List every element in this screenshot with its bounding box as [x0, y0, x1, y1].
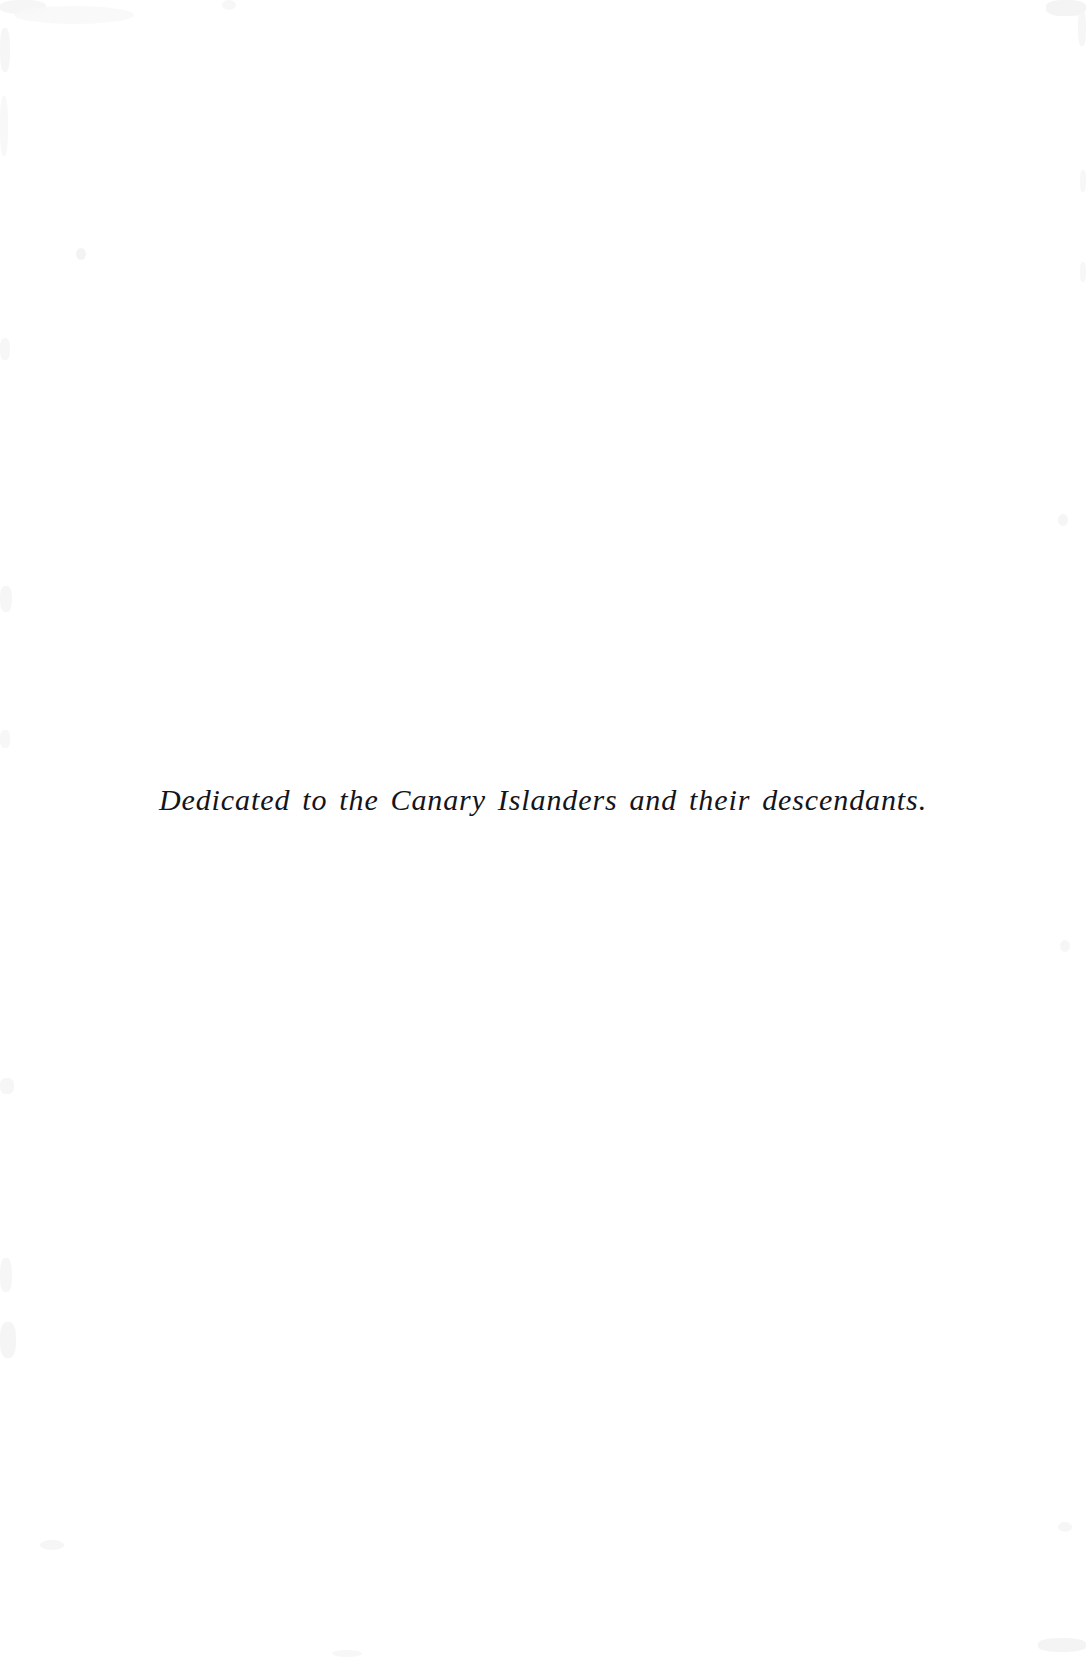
- scan-artifact: [332, 1650, 362, 1657]
- scan-artifact: [0, 28, 10, 72]
- scan-artifact: [1080, 170, 1086, 192]
- scan-artifact: [1058, 514, 1068, 526]
- scan-artifact: [0, 586, 12, 612]
- scan-artifact: [0, 338, 10, 360]
- scan-artifact: [0, 96, 8, 156]
- scan-artifact: [76, 248, 86, 260]
- scanned-page: Dedicated to the Canary Islanders and th…: [0, 0, 1086, 1657]
- scan-artifact: [0, 730, 10, 748]
- scan-artifact: [0, 0, 46, 14]
- scan-artifact: [40, 1540, 64, 1550]
- scan-artifact: [222, 0, 236, 10]
- scan-artifact: [0, 1322, 16, 1358]
- scan-artifact: [1038, 1638, 1086, 1652]
- scan-artifact: [1046, 0, 1086, 16]
- scan-artifact: [1058, 1522, 1072, 1532]
- scan-artifact: [0, 1258, 12, 1292]
- scan-artifact: [14, 6, 134, 24]
- dedication-text: Dedicated to the Canary Islanders and th…: [0, 780, 1086, 820]
- scan-artifact: [0, 1078, 14, 1094]
- scan-artifact: [1060, 940, 1070, 952]
- scan-artifact: [1078, 10, 1086, 46]
- scan-artifact: [1080, 262, 1086, 282]
